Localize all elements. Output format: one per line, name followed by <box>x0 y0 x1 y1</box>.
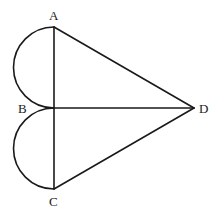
point-label-b: B <box>18 101 27 116</box>
point-label-d: D <box>199 101 208 116</box>
segment-cd <box>54 108 194 189</box>
geometry-diagram: A B C D <box>0 0 218 216</box>
point-label-a: A <box>49 8 59 23</box>
semicircle-ab <box>14 27 55 108</box>
segment-ad <box>54 27 194 108</box>
point-label-c: C <box>49 194 58 209</box>
semicircle-bc <box>14 108 54 189</box>
